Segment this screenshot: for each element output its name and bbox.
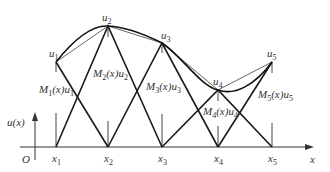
u2-label: u2: [102, 11, 112, 26]
x4-label: x4: [213, 152, 223, 167]
m3-label: M3(x)u3: [145, 80, 181, 95]
node-stubs-bottom: [56, 113, 272, 147]
y-axis-label: u(x): [7, 116, 25, 129]
u4-label: u4: [213, 75, 223, 90]
x-axis-label: x: [309, 153, 315, 165]
y-axis-arrow-icon: [32, 112, 38, 121]
m4-label: M4(x)u4: [202, 105, 238, 120]
x-axis-arrow-icon: [305, 144, 314, 150]
x1-label: x1: [51, 152, 61, 167]
x3-label: x3: [157, 152, 167, 167]
origin-label: O: [22, 153, 30, 165]
x2-label: x2: [103, 152, 113, 167]
u5-label: u5: [267, 47, 277, 62]
hat-m4: [162, 90, 272, 147]
m1-label: M1(x)u1: [38, 83, 74, 98]
u3-label: u3: [161, 29, 171, 44]
hat-m3: [108, 43, 218, 147]
shape-function-diagram: O x u(x) x1 x2 x3 x4 x5 u1 u2 u3 u4 u5 M…: [0, 0, 330, 172]
diagram-svg: O x u(x) x1 x2 x3 x4 x5 u1 u2 u3 u4 u5 M…: [0, 0, 330, 172]
x5-label: x5: [267, 152, 277, 167]
u1-label: u1: [49, 47, 59, 62]
m5-label: M5(x)u5: [257, 88, 293, 103]
m2-label: M2(x)u2: [92, 67, 128, 82]
